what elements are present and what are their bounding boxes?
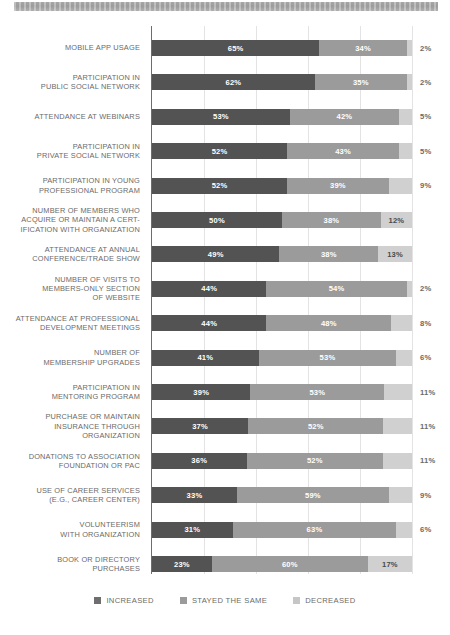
bar-segment-decreased[interactable]: 6% bbox=[396, 350, 412, 366]
bar-segment-decreased[interactable]: 11% bbox=[383, 418, 412, 434]
bar-segment-increased[interactable]: 39% bbox=[152, 384, 250, 400]
segment-value-label: 42% bbox=[336, 112, 352, 121]
bar-segment-increased[interactable]: 37% bbox=[152, 418, 248, 434]
bar-segment-increased[interactable]: 44% bbox=[152, 281, 266, 297]
bar-segment-decreased[interactable]: 17% bbox=[368, 556, 412, 572]
bar-segment-stayed-the-same[interactable]: 38% bbox=[279, 246, 378, 262]
bar-segment-stayed-the-same[interactable]: 60% bbox=[212, 556, 368, 572]
bar-segment-stayed-the-same[interactable]: 43% bbox=[287, 143, 399, 159]
bar-segment-decreased[interactable]: 2% bbox=[407, 40, 412, 56]
stacked-bar[interactable]: 44%54%2% bbox=[152, 281, 412, 297]
bar-segment-decreased[interactable]: 2% bbox=[407, 281, 412, 297]
bar-segment-increased[interactable]: 62% bbox=[152, 74, 315, 90]
bar-segment-increased[interactable]: 52% bbox=[152, 143, 287, 159]
stacked-bar[interactable]: 52%39%9% bbox=[152, 178, 412, 194]
bar-segment-stayed-the-same[interactable]: 54% bbox=[266, 281, 406, 297]
bar-segment-increased[interactable]: 33% bbox=[152, 487, 237, 503]
segment-value-label: 60% bbox=[282, 560, 298, 569]
bar-segment-stayed-the-same[interactable]: 42% bbox=[290, 109, 399, 125]
legend-label: DECREASED bbox=[305, 596, 355, 605]
bar-segment-decreased[interactable]: 11% bbox=[384, 384, 412, 400]
legend-item[interactable]: INCREASED bbox=[94, 596, 153, 605]
segment-value-label: 31% bbox=[184, 525, 200, 534]
stacked-bar[interactable]: 53%42%5% bbox=[152, 109, 412, 125]
bar-segment-increased[interactable]: 50% bbox=[152, 212, 282, 228]
outside-value-label: 6% bbox=[420, 525, 431, 534]
outside-value-label: 9% bbox=[420, 181, 431, 190]
bar-segment-increased[interactable]: 52% bbox=[152, 178, 287, 194]
outside-value-label: 9% bbox=[420, 491, 431, 500]
bar-segment-increased[interactable]: 65% bbox=[152, 40, 319, 56]
bar-segment-increased[interactable]: 53% bbox=[152, 109, 290, 125]
chart-row: PARTICIPATION IN YOUNG PROFESSIONAL PROG… bbox=[0, 171, 450, 201]
bar-segment-decreased[interactable]: 5% bbox=[399, 143, 412, 159]
category-label: MOBILE APP USAGE bbox=[0, 43, 146, 52]
stacked-bar[interactable]: 39%53%11% bbox=[152, 384, 412, 400]
stacked-bar[interactable]: 50%38%12% bbox=[152, 212, 412, 228]
bar-segment-stayed-the-same[interactable]: 38% bbox=[282, 212, 381, 228]
chart-row: USE OF CAREER SERVICES (E.G., CAREER CEN… bbox=[0, 480, 450, 510]
segment-value-label: 49% bbox=[208, 250, 224, 259]
bar-segment-decreased[interactable]: 13% bbox=[378, 246, 412, 262]
bar-segment-increased[interactable]: 31% bbox=[152, 522, 233, 538]
bar-segment-stayed-the-same[interactable]: 59% bbox=[237, 487, 389, 503]
bar-segment-stayed-the-same[interactable]: 35% bbox=[315, 74, 407, 90]
chart-row: PARTICIPATION IN PRIVATE SOCIAL NETWORK5… bbox=[0, 136, 450, 166]
bar-segment-stayed-the-same[interactable]: 34% bbox=[319, 40, 407, 56]
bar-segment-increased[interactable]: 23% bbox=[152, 556, 212, 572]
bar-segment-decreased[interactable]: 11% bbox=[383, 453, 412, 469]
bar-segment-increased[interactable]: 41% bbox=[152, 350, 259, 366]
bar-segment-stayed-the-same[interactable]: 63% bbox=[233, 522, 397, 538]
stacked-bar[interactable]: 62%35%2% bbox=[152, 74, 412, 90]
stacked-bar[interactable]: 23%60%17% bbox=[152, 556, 412, 572]
bar-segment-decreased[interactable]: 8% bbox=[391, 315, 412, 331]
bar-segment-increased[interactable]: 44% bbox=[152, 315, 266, 331]
legend-item[interactable]: STAYED THE SAME bbox=[180, 596, 267, 605]
bar-segment-increased[interactable]: 49% bbox=[152, 246, 279, 262]
bar-segment-stayed-the-same[interactable]: 52% bbox=[248, 418, 383, 434]
bar-segment-decreased[interactable]: 9% bbox=[389, 487, 412, 503]
bar-segment-decreased[interactable]: 5% bbox=[399, 109, 412, 125]
stacked-bar[interactable]: 52%43%5% bbox=[152, 143, 412, 159]
bar-segment-stayed-the-same[interactable]: 53% bbox=[250, 384, 384, 400]
bar-segment-stayed-the-same[interactable]: 52% bbox=[247, 453, 384, 469]
stacked-bar[interactable]: 44%48%8% bbox=[152, 315, 412, 331]
category-label: NUMBER OF MEMBERS WHO ACQUIRE OR MAINTAI… bbox=[0, 206, 146, 234]
category-label: PURCHASE OR MAINTAIN INSURANCE THROUGH O… bbox=[0, 412, 146, 440]
stacked-bar[interactable]: 31%63%6% bbox=[152, 522, 412, 538]
bar-segment-increased[interactable]: 36% bbox=[152, 453, 247, 469]
segment-value-label: 50% bbox=[209, 216, 225, 225]
bar-segment-stayed-the-same[interactable]: 53% bbox=[259, 350, 397, 366]
segment-value-label: 52% bbox=[308, 422, 324, 431]
segment-value-label: 17% bbox=[382, 560, 398, 569]
outside-value-label: 8% bbox=[420, 319, 431, 328]
category-label: PARTICIPATION IN YOUNG PROFESSIONAL PROG… bbox=[0, 176, 146, 195]
bar-segment-decreased[interactable]: 6% bbox=[396, 522, 412, 538]
category-label: ATTENDANCE AT PROFESSIONAL DEVELOPMENT M… bbox=[0, 314, 146, 333]
bar-segment-decreased[interactable]: 12% bbox=[381, 212, 412, 228]
chart-row: PARTICIPATION IN MENTORING PROGRAM39%53%… bbox=[0, 377, 450, 407]
chart-legend: INCREASEDSTAYED THE SAMEDECREASED bbox=[0, 596, 450, 605]
bar-segment-stayed-the-same[interactable]: 39% bbox=[287, 178, 388, 194]
stacked-bar[interactable]: 33%59%9% bbox=[152, 487, 412, 503]
segment-value-label: 48% bbox=[321, 319, 337, 328]
legend-item[interactable]: DECREASED bbox=[293, 596, 355, 605]
category-label: ATTENDANCE AT WEBINARS bbox=[0, 112, 146, 121]
chart-row: BOOK OR DIRECTORY PURCHASES23%60%17% bbox=[0, 549, 450, 579]
segment-value-label: 59% bbox=[305, 491, 321, 500]
bar-segment-decreased[interactable]: 9% bbox=[389, 178, 412, 194]
bar-segment-stayed-the-same[interactable]: 48% bbox=[266, 315, 391, 331]
stacked-bar[interactable]: 41%53%6% bbox=[152, 350, 412, 366]
category-label: NUMBER OF MEMBERSHIP UPGRADES bbox=[0, 348, 146, 367]
chart-row: ATTENDANCE AT ANNUAL CONFERENCE/TRADE SH… bbox=[0, 239, 450, 269]
stacked-bar[interactable]: 65%34%2% bbox=[152, 40, 412, 56]
outside-value-label: 11% bbox=[420, 388, 435, 397]
stacked-bar[interactable]: 37%52%11% bbox=[152, 418, 412, 434]
bar-segment-decreased[interactable]: 2% bbox=[407, 74, 412, 90]
category-label: PARTICIPATION IN PUBLIC SOCIAL NETWORK bbox=[0, 73, 146, 92]
segment-value-label: 13% bbox=[387, 250, 403, 259]
chart-row: PURCHASE OR MAINTAIN INSURANCE THROUGH O… bbox=[0, 411, 450, 441]
segment-value-label: 35% bbox=[353, 78, 369, 87]
stacked-bar[interactable]: 49%38%13% bbox=[152, 246, 412, 262]
stacked-bar[interactable]: 36%52%11% bbox=[152, 453, 412, 469]
